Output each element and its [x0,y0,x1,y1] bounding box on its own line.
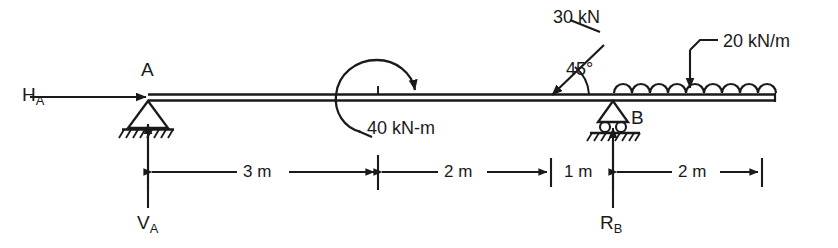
label-horizontal-reaction-a: HA [22,85,44,108]
dimension-label-1m: 1 m [564,163,592,180]
dimension-label-2m-right: 2 m [678,163,706,180]
pin-support-a [119,101,174,138]
label-distributed-load: 20 kN/m [723,32,790,50]
label-vertical-reaction-a: VA [137,213,158,236]
dimension-label-3m: 3 m [243,163,271,180]
beam-member [148,93,776,102]
label-support-b: B [631,108,644,127]
label-vertical-reaction-b: RB [600,213,622,236]
label-point-load-angle: 45° [566,60,593,78]
label-point-load: 30 kN [553,8,600,26]
beam-diagram-canvas: HA A VA 40 kN-m 30 kN 45° B RB 20 kN/m 3… [0,0,838,248]
label-applied-moment: 40 kN-m [367,119,435,137]
label-support-a: A [141,60,154,79]
distributed-load-scallops [614,84,776,93]
distributed-load-leader [690,40,718,88]
dimension-label-2m-left: 2 m [444,163,472,180]
